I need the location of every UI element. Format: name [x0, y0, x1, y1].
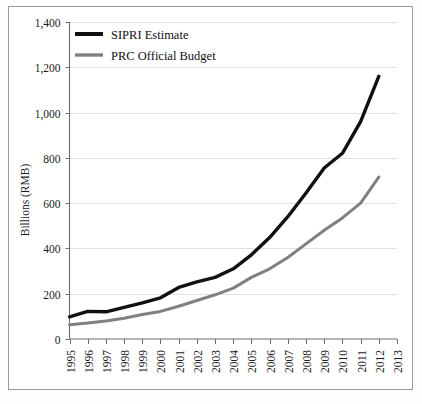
- x-tick-label: 2006: [265, 350, 277, 373]
- chart-figure: 02004006008001,0001,2001,400 19951996199…: [0, 0, 422, 404]
- y-tick-label: 1,400: [35, 17, 61, 30]
- legend-label: SIPRI Estimate: [111, 28, 189, 42]
- line-chart: 02004006008001,0001,2001,400 19951996199…: [0, 0, 422, 404]
- y-tick-label: 200: [43, 289, 61, 301]
- legend-label: PRC Official Budget: [111, 49, 216, 63]
- x-tick-label: 2005: [246, 350, 258, 373]
- y-tick-label: 800: [43, 153, 61, 165]
- series-line: [70, 177, 379, 325]
- x-tick-label: 2013: [392, 350, 404, 373]
- x-tick-label: 1998: [119, 350, 131, 373]
- x-tick-label: 2010: [337, 350, 349, 373]
- x-tick-label: 2000: [155, 350, 167, 373]
- x-tick-label: 1995: [65, 350, 77, 373]
- y-tick-labels-group: 02004006008001,0001,2001,400: [35, 17, 61, 346]
- axes-group: [70, 22, 398, 339]
- x-tick-label: 1999: [137, 350, 149, 373]
- y-tick-label: 400: [43, 243, 61, 255]
- y-tick-label: 0: [55, 334, 61, 346]
- gridlines-group: [70, 23, 398, 295]
- y-tick-marks-group: [66, 23, 70, 340]
- y-tick-label: 1,000: [35, 108, 61, 121]
- y-tick-label: 600: [43, 198, 61, 210]
- x-tick-label: 2012: [374, 350, 386, 373]
- x-tick-label: 2009: [319, 350, 331, 373]
- chart-legend: SIPRI EstimatePRC Official Budget: [75, 28, 216, 63]
- x-tick-label: 2007: [283, 350, 295, 373]
- x-tick-label: 2002: [192, 350, 204, 373]
- x-tick-label: 1997: [101, 350, 113, 373]
- y-axis-title: Billions (RMB): [19, 164, 32, 237]
- x-tick-label: 2004: [228, 350, 240, 373]
- x-tick-labels-group: 1995199619971998199920002001200220032004…: [65, 350, 404, 373]
- y-tick-label: 1,200: [35, 62, 61, 75]
- x-tick-label: 2003: [210, 350, 222, 373]
- x-tick-label: 2011: [356, 350, 368, 373]
- series-line: [70, 76, 379, 316]
- x-tick-marks-group: [71, 339, 398, 344]
- x-tick-label: 1996: [83, 350, 95, 373]
- x-tick-label: 2001: [174, 350, 186, 373]
- x-tick-label: 2008: [301, 350, 313, 373]
